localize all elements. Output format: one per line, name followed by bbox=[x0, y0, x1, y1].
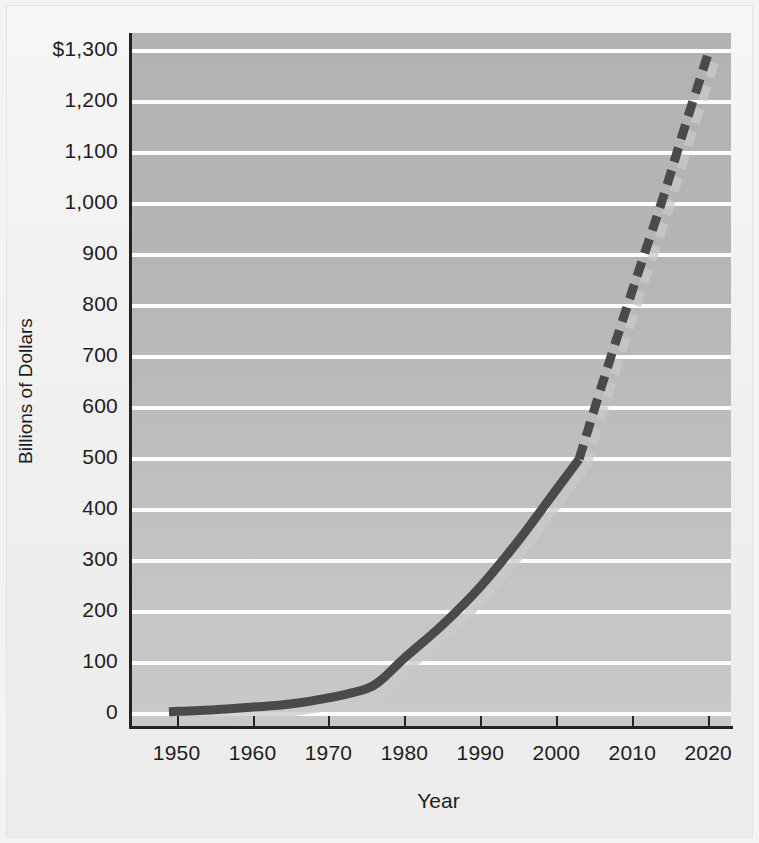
x-axis-tick bbox=[632, 716, 634, 727]
y-axis-line bbox=[129, 33, 132, 728]
y-axis-title: Billions of Dollars bbox=[15, 291, 37, 491]
plot-area bbox=[131, 33, 731, 727]
y-axis-tick-label: 300 bbox=[22, 547, 118, 571]
series-actual-solid-line bbox=[169, 459, 579, 712]
x-axis-line bbox=[129, 726, 733, 729]
x-axis-tick bbox=[177, 716, 179, 727]
series-projected-dashed-line bbox=[579, 53, 708, 459]
x-axis-tick bbox=[253, 716, 255, 727]
x-axis-title: Year bbox=[0, 789, 759, 813]
x-axis-tick-label: 2000 bbox=[521, 741, 591, 765]
y-axis-tick-label: 1,100 bbox=[22, 139, 118, 163]
y-axis-title-text: Billions of Dollars bbox=[15, 318, 36, 464]
y-axis-tick-label: 900 bbox=[22, 241, 118, 265]
y-axis-tick-label: 100 bbox=[22, 649, 118, 673]
y-axis-tick-label: 400 bbox=[22, 496, 118, 520]
y-axis-tick-label: 1,200 bbox=[22, 88, 118, 112]
data-series-layer bbox=[131, 33, 731, 727]
x-axis-tick bbox=[480, 716, 482, 727]
x-axis-tick-label: 1960 bbox=[218, 741, 288, 765]
x-axis-tick-label: 2020 bbox=[673, 741, 743, 765]
x-axis-tick-label: 1950 bbox=[142, 741, 212, 765]
y-axis-tick-label: 200 bbox=[22, 598, 118, 622]
series-line bbox=[169, 53, 708, 711]
x-axis-tick bbox=[556, 716, 558, 727]
chart-figure: 01002003004005006007008009001,0001,1001,… bbox=[0, 0, 759, 843]
x-axis-title-text: Year bbox=[417, 789, 459, 812]
y-axis-tick-label: 0 bbox=[22, 700, 118, 724]
series-shadow-dashed bbox=[586, 60, 715, 466]
x-axis-tick bbox=[404, 716, 406, 727]
y-axis-tick-label: 1,000 bbox=[22, 190, 118, 214]
x-axis-tick-label: 1990 bbox=[445, 741, 515, 765]
x-axis-tick-label: 2010 bbox=[597, 741, 667, 765]
x-axis-tick bbox=[708, 716, 710, 727]
x-axis-tick-label: 1980 bbox=[369, 741, 439, 765]
x-axis-tick bbox=[328, 716, 330, 727]
y-axis-tick-label: $1,300 bbox=[22, 37, 118, 61]
x-axis-tick-label: 1970 bbox=[293, 741, 363, 765]
